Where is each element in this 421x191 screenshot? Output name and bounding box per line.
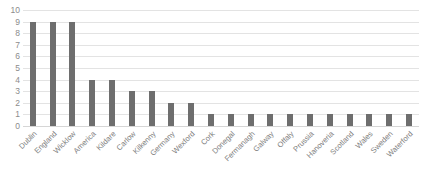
- bars-layer: [23, 10, 419, 126]
- y-axis-tick-label: 1: [15, 110, 20, 119]
- bar[interactable]: [30, 22, 36, 126]
- x-axis-slot: Offaly: [280, 128, 300, 191]
- bar[interactable]: [248, 114, 254, 126]
- y-axis-tick-label: 0: [15, 122, 20, 131]
- bar[interactable]: [168, 103, 174, 126]
- bar-slot: [360, 10, 380, 126]
- bar[interactable]: [287, 114, 293, 126]
- x-axis-slot: America: [82, 128, 102, 191]
- x-axis-slot: Wicklow: [63, 128, 83, 191]
- bar[interactable]: [406, 114, 412, 126]
- bar[interactable]: [188, 103, 194, 126]
- bar-slot: [399, 10, 419, 126]
- bar[interactable]: [208, 114, 214, 126]
- x-axis-slot: Cork: [201, 128, 221, 191]
- bar-slot: [221, 10, 241, 126]
- bar[interactable]: [69, 22, 75, 126]
- y-axis-tick-label: 9: [15, 17, 20, 26]
- bar[interactable]: [89, 80, 95, 126]
- bar-slot: [162, 10, 182, 126]
- bar[interactable]: [129, 91, 135, 126]
- bar-slot: [43, 10, 63, 126]
- x-axis-slot: Kildare: [102, 128, 122, 191]
- bar-slot: [201, 10, 221, 126]
- bar[interactable]: [347, 114, 353, 126]
- bar-slot: [122, 10, 142, 126]
- x-axis-slot: Sweden: [379, 128, 399, 191]
- bar-slot: [261, 10, 281, 126]
- bar-slot: [142, 10, 162, 126]
- x-axis-slot: England: [43, 128, 63, 191]
- x-axis-slot: Waterford: [399, 128, 419, 191]
- x-axis-slot: Hanoveria: [320, 128, 340, 191]
- y-axis-tick-label: 8: [15, 29, 20, 38]
- bar[interactable]: [307, 114, 313, 126]
- x-axis-slot: Carlow: [122, 128, 142, 191]
- bar-slot: [23, 10, 43, 126]
- bar[interactable]: [149, 91, 155, 126]
- x-axis-slot: Wales: [360, 128, 380, 191]
- bar-slot: [300, 10, 320, 126]
- y-axis-tick-label: 4: [15, 75, 20, 84]
- bar[interactable]: [109, 80, 115, 126]
- bar-slot: [82, 10, 102, 126]
- y-axis-tick-label: 2: [15, 99, 20, 108]
- x-axis-slot: Kilkenny: [142, 128, 162, 191]
- bar-chart: 109876543210 DublinEnglandWicklowAmerica…: [0, 0, 421, 191]
- bar-slot: [379, 10, 399, 126]
- x-axis-slot: Wexford: [181, 128, 201, 191]
- y-axis-tick-label: 7: [15, 41, 20, 50]
- x-axis-slot: Scotland: [340, 128, 360, 191]
- bar[interactable]: [50, 22, 56, 126]
- bar-slot: [181, 10, 201, 126]
- x-axis-slot: Fermanagh: [241, 128, 261, 191]
- bar-slot: [241, 10, 261, 126]
- bar[interactable]: [327, 114, 333, 126]
- bar[interactable]: [267, 114, 273, 126]
- bar-slot: [102, 10, 122, 126]
- x-axis-slot: Dublin: [23, 128, 43, 191]
- bar-slot: [340, 10, 360, 126]
- x-axis-slot: Germany: [162, 128, 182, 191]
- plot-area: [23, 10, 419, 126]
- bar[interactable]: [366, 114, 372, 126]
- y-axis-tick-label: 3: [15, 87, 20, 96]
- y-axis: 109876543210: [0, 0, 22, 126]
- bar-slot: [320, 10, 340, 126]
- y-axis-tick-label: 6: [15, 52, 20, 61]
- gridline: [23, 126, 419, 127]
- bar[interactable]: [386, 114, 392, 126]
- bar-slot: [63, 10, 83, 126]
- bar[interactable]: [228, 114, 234, 126]
- y-axis-tick-label: 10: [11, 6, 20, 15]
- y-axis-tick-label: 5: [15, 64, 20, 73]
- bar-slot: [280, 10, 300, 126]
- x-axis-slot: Galway: [261, 128, 281, 191]
- x-axis: DublinEnglandWicklowAmericaKildareCarlow…: [23, 128, 419, 191]
